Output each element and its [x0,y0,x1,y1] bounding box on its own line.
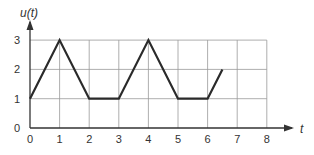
x-tick-label: 4 [145,133,151,145]
x-tick-label: 1 [57,133,63,145]
y-tick-label: 1 [14,93,20,105]
x-tick-label: 3 [116,133,122,145]
y-tick-labels: 0123 [14,34,20,134]
y-tick-label: 2 [14,63,20,75]
x-tick-label: 7 [234,133,240,145]
x-axis-label: t [300,122,304,136]
x-tick-label: 2 [86,133,92,145]
y-tick-label: 3 [14,34,20,46]
chart: 012345678 0123 u(t) t [0,0,314,155]
x-tick-label: 5 [175,133,181,145]
y-axis-arrow-icon [27,20,34,30]
y-tick-label: 0 [14,122,20,134]
x-tick-labels: 012345678 [27,133,270,145]
x-axis-arrow-icon [284,125,294,132]
y-axis-label: u(t) [20,6,38,20]
x-tick-label: 0 [27,133,33,145]
x-tick-label: 6 [205,133,211,145]
x-tick-label: 8 [264,133,270,145]
axes [27,20,295,132]
